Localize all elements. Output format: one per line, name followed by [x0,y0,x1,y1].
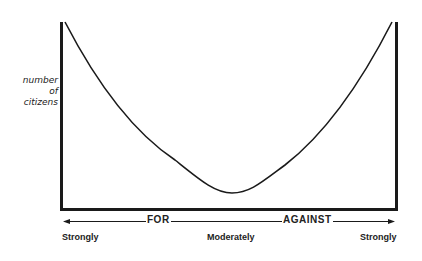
against-label: AGAINST [282,214,333,226]
y-label-line-2: of [14,86,58,97]
tick-strongly-against: Strongly [360,232,397,242]
tick-strongly-for: Strongly [62,232,99,242]
tick-moderately: Moderately [207,232,255,242]
for-label: FOR [146,214,171,226]
arrow-left-icon [63,219,70,224]
arrow-right-icon [388,219,395,224]
distribution-curve [65,22,392,193]
y-label-line-1: number [14,75,58,86]
y-label-line-3: citizens [14,97,58,108]
y-axis-label: number of citizens [14,75,58,108]
chart-canvas [0,0,422,261]
